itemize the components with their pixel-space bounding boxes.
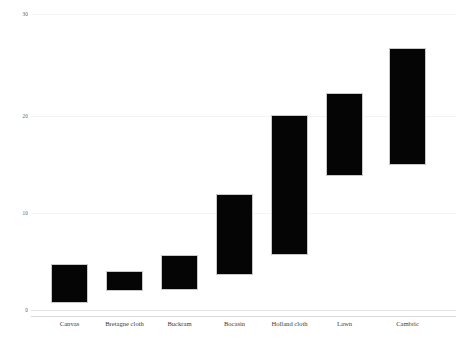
xtick-label-canvas: Canvas: [40, 319, 99, 328]
bar-cambric[interactable]: [389, 48, 426, 165]
ytick-10: 10: [0, 210, 28, 216]
plot-area: 30 20 10 0 Canvas Bretagne cloth Buckram…: [0, 0, 464, 343]
xtick-label-cambric: Cambric: [378, 319, 437, 328]
ytick-label-0: 0: [2, 307, 28, 313]
ytick-20: 20: [0, 113, 28, 119]
x-axis-line: [31, 316, 456, 317]
ytick-label-30: 30: [2, 11, 28, 17]
gridline-0: [31, 310, 456, 311]
ytick-label-10: 10: [2, 210, 28, 216]
ytick-label-20: 20: [2, 113, 28, 119]
xtick-label-holland-cloth: Holland cloth: [260, 319, 319, 328]
bar-holland-cloth[interactable]: [271, 115, 308, 255]
xtick-label-bocasin: Bocasin: [205, 319, 264, 328]
xtick-label-bretagne-cloth: Bretagne cloth: [95, 319, 154, 328]
bar-buckram[interactable]: [161, 255, 198, 290]
bar-lawn[interactable]: [326, 93, 363, 176]
bar-bocasin[interactable]: [216, 194, 253, 275]
ytick-0: 0: [0, 307, 28, 313]
xtick-label-buckram: Buckram: [150, 319, 209, 328]
xtick-label-lawn: Lawn: [315, 319, 374, 328]
ytick-30: 30: [0, 11, 28, 17]
range-bar-chart: 30 20 10 0 Canvas Bretagne cloth Buckram…: [0, 0, 464, 343]
bar-canvas[interactable]: [51, 264, 88, 303]
bar-bretagne-cloth[interactable]: [106, 271, 143, 291]
gridline-30: [31, 14, 456, 15]
